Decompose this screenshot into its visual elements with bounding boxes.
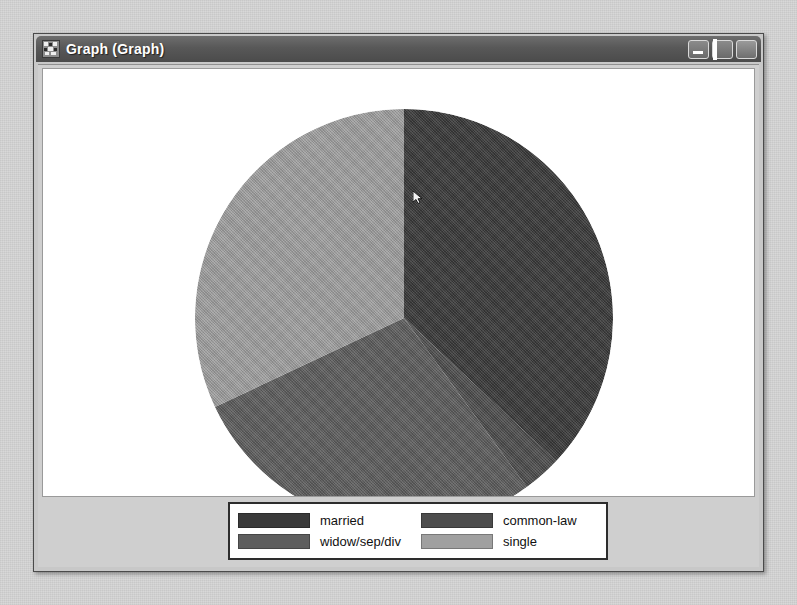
pie-svg	[195, 109, 613, 497]
legend-label-widow-sep-div: widow/sep/div	[320, 534, 401, 549]
pie-chart	[43, 69, 754, 496]
legend-swatch-married	[238, 513, 310, 528]
minimize-button[interactable]	[688, 40, 709, 59]
maximize-button[interactable]	[712, 40, 733, 59]
window-titlebar[interactable]: Graph (Graph)	[36, 36, 761, 62]
close-button[interactable]	[736, 40, 757, 59]
legend-label-married: married	[320, 513, 364, 528]
chart-legend: married common-law widow/sep/div single	[228, 502, 608, 560]
window-client-area: married common-law widow/sep/div single	[38, 64, 759, 567]
legend-item-common-law: common-law	[421, 513, 598, 528]
legend-label-common-law: common-law	[503, 513, 577, 528]
legend-swatch-single	[421, 534, 493, 549]
pie-slices	[195, 109, 613, 497]
legend-item-single: single	[421, 534, 598, 549]
legend-item-married: married	[238, 513, 415, 528]
graph-app-icon	[42, 40, 60, 58]
legend-item-widow-sep-div: widow/sep/div	[238, 534, 415, 549]
window-title: Graph (Graph)	[66, 41, 688, 57]
window-controls	[688, 40, 757, 59]
chart-canvas	[42, 68, 755, 497]
legend-label-single: single	[503, 534, 537, 549]
legend-swatch-common-law	[421, 513, 493, 528]
graph-window: Graph (Graph)	[33, 33, 764, 572]
legend-swatch-widow-sep-div	[238, 534, 310, 549]
